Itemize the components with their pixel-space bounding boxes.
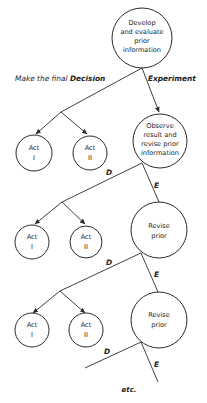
node-text-line: Act xyxy=(29,144,40,152)
e-label: E xyxy=(154,360,159,369)
node-text-line: prior xyxy=(151,321,167,329)
node-text-line: prior xyxy=(134,37,150,45)
node-text-line: I xyxy=(31,331,33,339)
node-text-line: II xyxy=(84,331,88,339)
decision-label-bold: Decision xyxy=(70,74,105,83)
act-i-node: Act I xyxy=(15,225,49,259)
node-text-line: information xyxy=(141,149,179,157)
node-text-line: Act xyxy=(81,233,92,241)
act-ii-node: Act II xyxy=(70,226,102,258)
node-develop-prior: Develop and evaluate prior information xyxy=(112,8,172,68)
act-i-node: Act I xyxy=(16,135,52,171)
act-ii-node: Act II xyxy=(73,136,107,170)
e-label: E xyxy=(154,270,159,279)
node-circle xyxy=(16,135,52,171)
experiment-label: Experiment xyxy=(148,74,196,83)
e-label: E xyxy=(154,181,159,190)
node-text-line: Act xyxy=(85,144,96,152)
node-text-line: Act xyxy=(27,233,38,241)
d-label: D xyxy=(106,258,112,267)
decision-label: Make the final Decision xyxy=(15,74,105,83)
node-text-line: result and xyxy=(143,131,176,139)
decision-edge xyxy=(60,253,141,291)
node-circle xyxy=(15,225,49,259)
continuation-label: etc. xyxy=(122,386,137,394)
node-revise-prior: Revise prior xyxy=(131,292,187,348)
act-ii-edge xyxy=(60,291,85,313)
node-observe-revise: Observe result and revise prior informat… xyxy=(133,114,187,168)
act-ii-edge xyxy=(62,202,85,224)
node-text-line: Revise xyxy=(148,311,170,319)
act-i-node: Act I xyxy=(15,313,49,347)
decision-label-prefix: Make the final xyxy=(15,74,70,83)
node-revise-prior: Revise prior xyxy=(131,202,187,258)
decision-edge xyxy=(62,163,142,202)
d-label: D xyxy=(106,168,112,177)
node-circle xyxy=(69,313,103,347)
node-text-line: prior xyxy=(151,232,167,240)
node-circle xyxy=(70,226,102,258)
d-label: D xyxy=(104,347,110,356)
act-ii-node: Act II xyxy=(69,313,103,347)
node-text-line: II xyxy=(88,154,92,162)
node-text-line: II xyxy=(84,243,88,251)
node-circle xyxy=(131,202,187,258)
node-text-line: and evaluate xyxy=(120,28,163,36)
act-i-edge xyxy=(33,291,60,313)
node-text-line: I xyxy=(31,243,33,251)
node-text-line: information xyxy=(123,46,161,54)
decision-tree-diagram: Develop and evaluate prior information M… xyxy=(0,0,207,403)
node-circle xyxy=(73,136,107,170)
node-text-line: Revise xyxy=(148,222,170,230)
node-circle xyxy=(131,292,187,348)
act-i-edge xyxy=(36,112,61,134)
node-text-line: Act xyxy=(27,321,38,329)
act-ii-edge xyxy=(61,112,87,134)
node-text-line: Observe xyxy=(146,122,174,130)
node-text-line: revise prior xyxy=(141,140,179,148)
node-text-line: Develop xyxy=(128,19,155,27)
node-circle xyxy=(15,313,49,347)
decision-edge xyxy=(85,342,141,368)
node-text-line: Act xyxy=(81,321,92,329)
act-i-edge xyxy=(35,202,62,224)
node-text-line: I xyxy=(33,154,35,162)
